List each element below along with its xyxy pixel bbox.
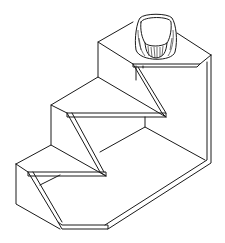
stair-solid-svg [0, 0, 225, 243]
base-floor [40, 117, 205, 185]
right-wall [105, 55, 211, 229]
bottom-step [16, 145, 108, 229]
isometric-drawing: Isometric line drawing of a three-step s… [0, 0, 225, 243]
middle-step [51, 77, 166, 176]
knob [135, 14, 176, 59]
